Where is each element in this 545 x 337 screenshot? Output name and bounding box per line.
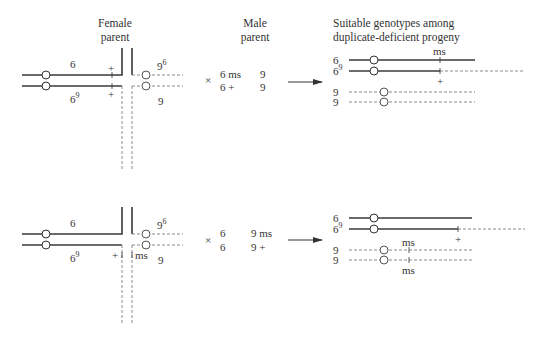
- female-junction-plus: +: [112, 249, 118, 261]
- label-sup: 9: [339, 221, 343, 230]
- male-row1-left: 6: [220, 227, 226, 239]
- cross-symbol: ×: [205, 234, 211, 246]
- male-row2-left: 6 +: [220, 81, 234, 93]
- genetics-diagram: Female parent Male parent Suitable genot…: [0, 0, 545, 337]
- progeny-plus-marker: +: [437, 75, 443, 87]
- chromosome-lines: [0, 0, 545, 337]
- female-right-upper-label: 96: [157, 219, 167, 231]
- female-right-lower-label: 9: [158, 254, 164, 266]
- label-sup: 9: [76, 91, 80, 100]
- female-junction-ms: ms: [135, 249, 148, 261]
- progeny-row-label: 9: [333, 254, 339, 266]
- female-lower-label: 69: [70, 252, 80, 264]
- progeny-row-label: 69: [333, 223, 343, 235]
- progeny-ms-marker: ms: [402, 236, 415, 248]
- male-row2-right: 9: [260, 81, 266, 93]
- progeny-plus-marker: +: [455, 233, 461, 245]
- male-row2-left: 6: [220, 241, 226, 253]
- female-upper-marker: +: [108, 62, 114, 74]
- progeny-row-label: 69: [333, 65, 343, 77]
- female-lower-marker: +: [108, 88, 114, 100]
- male-row1-right: 9 ms: [251, 227, 272, 239]
- female-upper-label: 6: [70, 217, 76, 229]
- label-sup: 9: [339, 63, 343, 72]
- label-sup: 9: [76, 250, 80, 259]
- progeny-ms-marker: ms: [433, 45, 446, 57]
- male-row2-right: 9 +: [251, 241, 265, 253]
- male-row1-left: 6 ms: [220, 68, 241, 80]
- female-lower-label: 69: [70, 93, 80, 105]
- female-right-lower-label: 9: [158, 95, 164, 107]
- female-right-upper-label: 96: [157, 60, 167, 72]
- progeny-ms-marker: ms: [402, 264, 415, 276]
- progeny-row-label: 9: [333, 96, 339, 108]
- label-sup: 6: [163, 217, 167, 226]
- male-row1-right: 9: [260, 68, 266, 80]
- label-sup: 6: [163, 58, 167, 67]
- female-upper-label: 6: [70, 58, 76, 70]
- cross-symbol: ×: [205, 74, 211, 86]
- panel2-progeny: [349, 214, 525, 264]
